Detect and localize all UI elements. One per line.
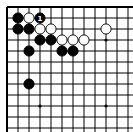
black-stone <box>46 35 56 45</box>
white-stone <box>79 35 89 45</box>
black-stone <box>24 79 34 89</box>
black-stone <box>24 24 34 34</box>
white-stone <box>46 24 56 34</box>
black-stone <box>13 24 23 34</box>
white-stone <box>68 35 78 45</box>
go-board-diagram: 1 <box>0 0 133 132</box>
star-point <box>104 104 107 107</box>
black-stone <box>68 46 78 56</box>
white-stone <box>24 13 34 23</box>
white-stone <box>35 24 45 34</box>
move-number-label: 1 <box>38 15 43 23</box>
white-stone <box>101 24 111 34</box>
star-point <box>104 38 107 41</box>
black-stone: 1 <box>35 13 45 23</box>
black-stone <box>35 35 45 45</box>
black-stone <box>24 46 34 56</box>
star-point <box>38 104 41 107</box>
white-stone <box>57 35 67 45</box>
black-stone <box>13 13 23 23</box>
black-stone <box>57 46 67 56</box>
